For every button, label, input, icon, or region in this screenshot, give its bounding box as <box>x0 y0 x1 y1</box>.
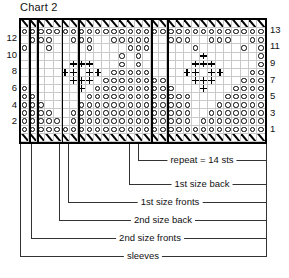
chart-cell <box>208 134 216 142</box>
chart-cell <box>45 28 53 36</box>
chart-cell <box>200 61 208 69</box>
chart-cell <box>54 28 62 36</box>
chart-cell <box>21 101 29 109</box>
chart-cell <box>176 126 184 134</box>
chart-cell <box>21 85 29 93</box>
chart-cell <box>127 44 135 52</box>
chart-cell <box>184 101 192 109</box>
chart-cell <box>232 53 240 61</box>
chart-cell <box>70 101 78 109</box>
chart-cell <box>127 85 135 93</box>
chart-cell <box>208 53 216 61</box>
chart-cell <box>119 20 127 28</box>
chart-cell <box>257 118 265 126</box>
chart-cell <box>159 101 167 109</box>
chart-cell <box>200 118 208 126</box>
chart-cell <box>216 134 224 142</box>
chart-cell <box>110 69 118 77</box>
chart-cell <box>127 126 135 134</box>
chart-cell <box>21 77 29 85</box>
chart-cell <box>224 134 232 142</box>
chart-cell <box>143 93 151 101</box>
chart-cell <box>241 36 249 44</box>
chart-cell <box>159 93 167 101</box>
chart-cell <box>86 77 94 85</box>
chart-cell <box>176 101 184 109</box>
chart-cell <box>200 20 208 28</box>
chart-cell <box>192 93 200 101</box>
chart-cell <box>184 77 192 85</box>
chart-cell <box>224 28 232 36</box>
chart-cell <box>257 61 265 69</box>
chart-cell <box>94 44 102 52</box>
chart-cell <box>241 28 249 36</box>
chart-cell <box>159 134 167 142</box>
chart-cell <box>143 118 151 126</box>
chart-cell <box>192 85 200 93</box>
chart-cell <box>159 36 167 44</box>
chart-cell <box>200 53 208 61</box>
chart-cell <box>45 53 53 61</box>
chart-cell <box>102 53 110 61</box>
chart-cell <box>86 134 94 142</box>
chart-cell <box>119 61 127 69</box>
chart-cell <box>208 118 216 126</box>
chart-cell <box>216 44 224 52</box>
chart-cell <box>119 134 127 142</box>
chart-cell <box>232 101 240 109</box>
bracket-1st-back-right-stem <box>266 160 267 184</box>
chart-cell <box>200 28 208 36</box>
chart-cell <box>232 126 240 134</box>
chart-cell <box>257 85 265 93</box>
chart-cell <box>45 69 53 77</box>
chart-cell <box>143 36 151 44</box>
chart-cell <box>86 109 94 117</box>
chart-cell <box>257 101 265 109</box>
chart-cell <box>192 101 200 109</box>
chart-cell <box>127 77 135 85</box>
bracket-1st-back-left-stem <box>129 144 130 184</box>
chart-cell <box>249 85 257 93</box>
chart-cell <box>21 109 29 117</box>
chart-cell <box>257 28 265 36</box>
chart-cell <box>94 134 102 142</box>
chart-cell <box>21 53 29 61</box>
bracket-2nd-fronts-left-stem <box>31 144 32 238</box>
chart-cell <box>216 61 224 69</box>
bracket-repeat-right-stem <box>266 144 267 160</box>
chart-cell <box>110 93 118 101</box>
legend-label-repeat: repeat = 14 sts <box>167 154 236 165</box>
chart-cell <box>135 126 143 134</box>
chart-cell <box>94 93 102 101</box>
chart-cell <box>208 20 216 28</box>
chart-cell <box>135 109 143 117</box>
row-label-left-8: 8 <box>0 65 17 76</box>
chart-cell <box>159 61 167 69</box>
chart-cell <box>110 53 118 61</box>
chart-cell <box>216 85 224 93</box>
chart-cell <box>192 28 200 36</box>
chart-cell <box>143 126 151 134</box>
chart-cell <box>110 44 118 52</box>
chart-cell <box>257 44 265 52</box>
chart-cell <box>224 44 232 52</box>
row-label-right-3: 3 <box>270 107 288 118</box>
chart-cell <box>86 36 94 44</box>
chart-cell <box>54 118 62 126</box>
chart-cell <box>70 118 78 126</box>
chart-cell <box>135 134 143 142</box>
chart-cell <box>232 44 240 52</box>
chart-cell <box>102 101 110 109</box>
chart-cell <box>241 69 249 77</box>
chart-cell <box>21 20 29 28</box>
chart-cell <box>143 109 151 117</box>
chart-cell <box>21 126 29 134</box>
chart-cell <box>143 101 151 109</box>
chart-cell <box>249 36 257 44</box>
chart-cell <box>110 126 118 134</box>
chart-cell <box>94 85 102 93</box>
chart-cell <box>249 93 257 101</box>
chart-cell <box>102 61 110 69</box>
chart-cell <box>200 69 208 77</box>
bracket-1st-fronts-left-stem <box>68 144 69 202</box>
